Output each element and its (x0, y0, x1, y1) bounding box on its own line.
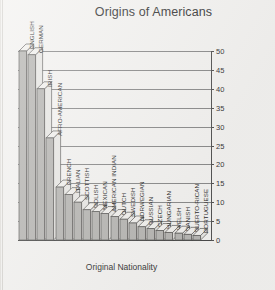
bar (46, 0, 54, 240)
bar (111, 0, 119, 240)
bar (184, 0, 192, 240)
bar (92, 0, 100, 240)
category-label: PORTUGUESE (202, 189, 209, 233)
bar (138, 0, 146, 240)
bar (56, 0, 64, 240)
bar (74, 0, 82, 240)
bar (19, 0, 27, 240)
bar (165, 0, 173, 240)
bar (37, 0, 45, 240)
bar (120, 0, 128, 240)
chart-figure: Origins of Americans 0510152025303540455… (0, 0, 275, 290)
bar (175, 0, 183, 240)
bar (101, 0, 109, 240)
bar (65, 0, 73, 240)
x-axis-label: Original Nationality (0, 262, 275, 272)
bar (156, 0, 164, 240)
bar (83, 0, 91, 240)
bar (28, 0, 36, 240)
bar-series: ENGLISHGERMANIRISHAFRO-AMERICANFRENCHITA… (0, 0, 275, 290)
bar (147, 0, 155, 240)
bar (129, 0, 137, 240)
x-axis-label-text: Original Nationality (86, 262, 157, 272)
bar (193, 0, 201, 240)
